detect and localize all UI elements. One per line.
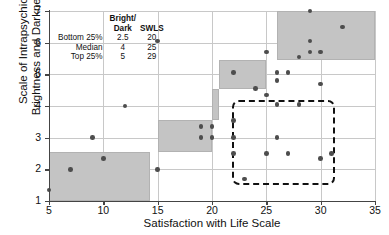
- data-point: [101, 156, 106, 161]
- y-tick-3: [45, 138, 49, 139]
- x-axis-title: Satisfaction with Life Scale: [49, 217, 375, 229]
- y-axis-title-line1: Scale of Intrapsychic: [17, 0, 30, 141]
- stats-row-label: Top 25%: [56, 52, 108, 62]
- stats-table-row: Bottom 25%2.520: [56, 33, 166, 43]
- data-point: [231, 135, 236, 140]
- data-point: [318, 82, 323, 87]
- stats-table-header-row-1: Bright/: [56, 14, 166, 24]
- data-point: [210, 124, 215, 129]
- x-tick-label-10: 10: [88, 204, 118, 216]
- data-point: [340, 25, 345, 30]
- data-point: [210, 135, 215, 140]
- y-tick-4: [45, 106, 49, 107]
- stats-row-label: Median: [56, 43, 108, 53]
- x-tick-label-25: 25: [251, 204, 281, 216]
- stats-header-swls: SWLS: [138, 24, 166, 34]
- stats-row-bright-dark: 4: [108, 43, 138, 53]
- shaded-box-1: [158, 120, 212, 152]
- data-point: [318, 156, 323, 161]
- stats-header-blank-1: [56, 14, 108, 24]
- y-tick-6: [45, 43, 49, 44]
- y-axis-title-line2: Brightness and Darkness: [30, 0, 43, 141]
- stats-header-bright-dark-line2: Dark: [108, 24, 138, 34]
- x-tick-label-20: 20: [197, 204, 227, 216]
- stats-table-body: Bottom 25%2.520Median425Top 25%529: [56, 33, 166, 62]
- data-point: [68, 167, 73, 172]
- stats-header-bright-dark-line1: Bright/: [108, 14, 138, 24]
- y-tick-7: [45, 11, 49, 12]
- stats-header-blank-2: [138, 14, 166, 24]
- data-point: [242, 177, 247, 182]
- stats-row-bright-dark: 2.5: [108, 33, 138, 43]
- data-point: [275, 78, 280, 83]
- stats-row-swls: 29: [138, 52, 166, 62]
- data-point: [253, 86, 258, 91]
- y-tick-label-2: 2: [24, 163, 41, 174]
- x-tick-label-15: 15: [143, 204, 173, 216]
- y-tick-1: [45, 201, 49, 202]
- shaded-box-2: [212, 89, 219, 121]
- stats-header-blank-3: [56, 24, 108, 34]
- stats-summary-table: Bright/ Dark SWLS Bottom 25%2.520Median4…: [56, 14, 166, 62]
- data-point: [231, 118, 236, 123]
- stats-row-swls: 20: [138, 33, 166, 43]
- y-tick-5: [45, 74, 49, 75]
- gridline-x-35: [375, 11, 376, 201]
- shaded-box-4: [277, 11, 375, 60]
- data-point: [264, 151, 269, 156]
- data-point: [90, 135, 95, 140]
- x-tick-label-30: 30: [306, 204, 336, 216]
- data-point: [231, 151, 236, 156]
- stats-table-row: Top 25%529: [56, 52, 166, 62]
- y-tick-label-1: 1: [24, 195, 41, 206]
- scatter-plot-figure: 5101520253035 1234567 Satisfaction with …: [0, 0, 389, 235]
- y-axis-title: Scale of Intrapsychic Brightness and Dar…: [17, 0, 43, 141]
- data-point: [123, 104, 128, 109]
- stats-table-header-row-2: Dark SWLS: [56, 24, 166, 34]
- stats-table-row: Median425: [56, 43, 166, 53]
- data-point: [155, 167, 160, 172]
- shaded-box-3: [219, 60, 267, 89]
- dashed-highlight-region: [232, 100, 335, 186]
- data-point: [286, 151, 291, 156]
- stats-row-swls: 25: [138, 43, 166, 53]
- stats-row-label: Bottom 25%: [56, 33, 108, 43]
- data-point: [264, 93, 269, 98]
- data-point: [264, 50, 269, 55]
- y-tick-2: [45, 169, 49, 170]
- stats-table-head: Bright/ Dark SWLS: [56, 14, 166, 33]
- shaded-box-0: [49, 152, 150, 201]
- stats-row-bright-dark: 5: [108, 52, 138, 62]
- data-point: [329, 151, 334, 156]
- data-point: [297, 102, 302, 107]
- x-tick-label-35: 35: [360, 204, 389, 216]
